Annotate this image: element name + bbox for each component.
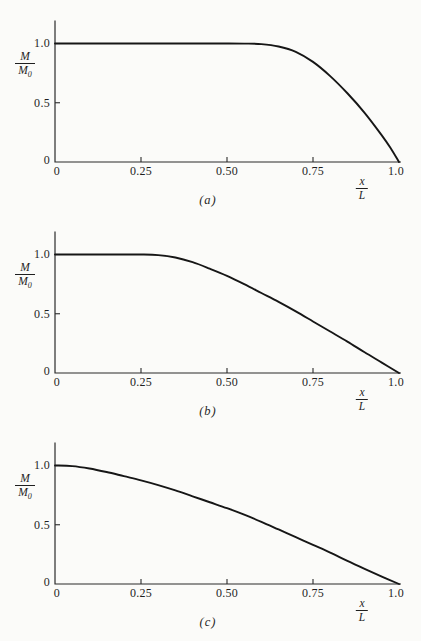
y-axis-denominator-subscript: 0 <box>28 492 32 501</box>
x-axis-numerator: x <box>356 597 367 610</box>
axes <box>55 232 401 374</box>
y-axis-label-c: M M0 <box>8 472 42 501</box>
y-axis-label-a: M M0 <box>8 50 42 79</box>
y-axis-numerator: M <box>17 261 33 274</box>
x-tick-label: 0.25 <box>130 587 152 599</box>
moment-curve <box>55 466 399 585</box>
y-axis-denominator-subscript: 0 <box>28 281 32 290</box>
x-axis-numerator: x <box>356 386 367 399</box>
moment-curve <box>55 254 399 373</box>
y-tick-label: 0.5 <box>0 97 50 109</box>
x-tick-label: 0.50 <box>216 165 238 177</box>
x-tick-label: 1.0 <box>388 165 404 177</box>
x-axis-denominator: L <box>356 610 368 624</box>
x-axis-denominator: L <box>356 399 368 413</box>
chart-caption-a: (a) <box>199 194 217 207</box>
x-tick-label: 1.0 <box>388 376 404 388</box>
x-tick-label: 0 <box>54 376 60 388</box>
y-tick-label: 0 <box>0 576 50 588</box>
x-tick-label: 0.75 <box>302 587 324 599</box>
y-tick-label: 0 <box>0 154 50 166</box>
y-axis-denominator: M0 <box>15 274 35 290</box>
y-axis-numerator: M <box>17 472 33 485</box>
y-tick-label: 0.5 <box>0 519 50 531</box>
x-tick-label: 0.75 <box>302 165 324 177</box>
y-axis-label-b: M M0 <box>8 261 42 290</box>
y-tick-label: 1.0 <box>0 248 50 260</box>
x-axis-numerator: x <box>356 175 367 188</box>
y-axis-denominator: M0 <box>15 63 35 79</box>
chart-a: M M0 1.0 0.5 0 0 0.25 0.50 0.75 1.0 x L … <box>0 0 421 219</box>
y-tick-label: 0.5 <box>0 308 50 320</box>
x-axis-label-c: x L <box>356 597 368 624</box>
y-tick-label: 0 <box>0 365 50 377</box>
x-tick-label: 0.25 <box>130 165 152 177</box>
moment-curve <box>55 43 399 162</box>
chart-caption-b: (b) <box>199 405 217 418</box>
x-tick-label: 0 <box>54 587 60 599</box>
axes <box>55 443 401 585</box>
scanned-figure-page: M M0 1.0 0.5 0 0 0.25 0.50 0.75 1.0 x L … <box>0 0 421 641</box>
x-tick-label: 0 <box>54 165 60 177</box>
x-tick-label: 0.50 <box>216 376 238 388</box>
x-axis-label-b: x L <box>356 386 368 413</box>
x-tick-label: 1.0 <box>388 587 404 599</box>
axes <box>55 21 401 163</box>
x-axis-label-a: x L <box>356 175 368 202</box>
y-axis-numerator: M <box>17 50 33 63</box>
x-tick-label: 0.50 <box>216 587 238 599</box>
x-axis-denominator: L <box>356 188 368 202</box>
chart-c: M M0 1.0 0.5 0 0 0.25 0.50 0.75 1.0 x L … <box>0 422 421 641</box>
chart-b: M M0 1.0 0.5 0 0 0.25 0.50 0.75 1.0 x L … <box>0 211 421 430</box>
y-axis-denominator: M0 <box>15 485 35 501</box>
x-tick-label: 0.25 <box>130 376 152 388</box>
chart-caption-c: (c) <box>200 616 217 629</box>
x-tick-label: 0.75 <box>302 376 324 388</box>
y-tick-label: 1.0 <box>0 459 50 471</box>
y-axis-denominator-subscript: 0 <box>28 70 32 79</box>
y-tick-label: 1.0 <box>0 37 50 49</box>
